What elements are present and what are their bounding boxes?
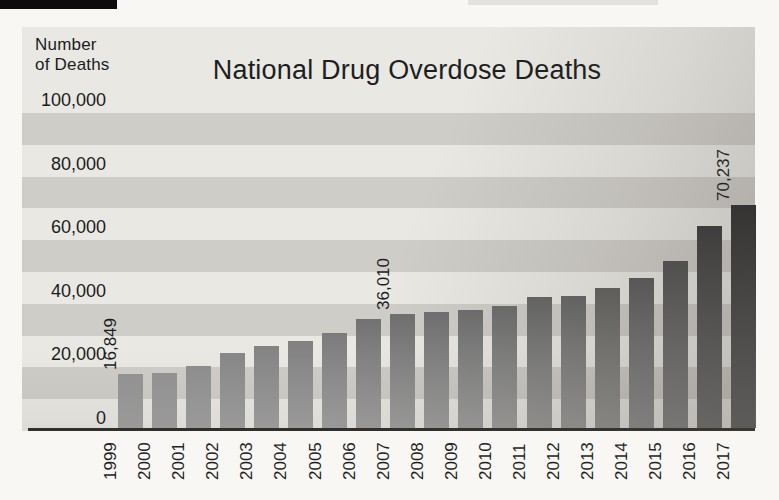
bar-2000	[152, 373, 177, 428]
y-axis-title: Number of Deaths	[35, 35, 110, 75]
bar-2009	[458, 310, 483, 428]
bar-2005	[322, 333, 347, 428]
y-tick-label-100000: 100,000	[26, 89, 106, 111]
bar-1999	[118, 374, 143, 428]
y-tick-label-20000: 20,000	[26, 343, 106, 365]
x-tick-label-2012: 2012	[545, 442, 563, 480]
bar-2012	[561, 296, 586, 428]
x-tick-label-2007: 2007	[375, 442, 393, 480]
bar-value-label-1999: 16,849	[102, 318, 120, 370]
plot-area: Number of Deaths National Drug Overdose …	[22, 27, 755, 431]
bar-2004	[288, 341, 313, 428]
bar-2008	[424, 312, 449, 428]
bar-2011	[527, 297, 552, 429]
y-tick-label-80000: 80,000	[26, 153, 106, 175]
y-axis-title-line1: Number	[35, 35, 110, 55]
x-tick-label-2016: 2016	[681, 442, 699, 480]
bar-2007	[390, 314, 415, 429]
bar-2015	[663, 261, 688, 428]
x-tick-label-2003: 2003	[238, 442, 256, 480]
x-tick-label-2006: 2006	[341, 442, 359, 480]
x-tick-label-2002: 2002	[204, 442, 222, 480]
x-tick-label-2014: 2014	[613, 442, 631, 480]
plot-band	[22, 177, 755, 209]
x-tick-label-2011: 2011	[511, 443, 529, 480]
bar-2016	[697, 226, 722, 428]
bar-2001	[186, 366, 211, 428]
bar-2017	[731, 205, 756, 428]
bar-2006	[356, 319, 381, 429]
bar-2003	[254, 346, 279, 428]
x-tick-label-2004: 2004	[272, 442, 290, 480]
x-axis-line	[28, 428, 755, 431]
plot-band	[22, 208, 755, 240]
bar-2014	[629, 278, 654, 428]
plot-band	[22, 145, 755, 177]
x-tick-label-2009: 2009	[443, 442, 461, 480]
bar-2002	[220, 353, 245, 428]
y-tick-label-60000: 60,000	[26, 216, 106, 238]
x-tick-label-2010: 2010	[477, 442, 495, 480]
x-tick-label-2017: 2017	[715, 442, 733, 480]
x-tick-label-2000: 2000	[136, 442, 154, 480]
bar-2010	[492, 306, 517, 428]
y-axis-title-line2: of Deaths	[35, 55, 110, 75]
chart-page: Number of Deaths National Drug Overdose …	[0, 0, 779, 500]
x-tick-label-2005: 2005	[307, 442, 325, 480]
x-tick-label-2001: 2001	[170, 442, 188, 480]
bar-value-label-2007: 36,010	[375, 258, 393, 310]
scan-artifact-black-bar	[0, 0, 117, 9]
x-tick-label-2008: 2008	[409, 442, 427, 480]
chart-title: National Drug Overdose Deaths	[213, 55, 602, 86]
y-tick-label-0: 0	[26, 407, 106, 429]
bar-value-label-2017: 70,237	[715, 149, 733, 201]
x-tick-label-2015: 2015	[647, 442, 665, 480]
bar-2013	[595, 288, 620, 428]
x-tick-label-2013: 2013	[579, 442, 597, 480]
plot-band	[22, 113, 755, 145]
scan-artifact-smudge	[468, 0, 658, 5]
y-tick-label-40000: 40,000	[26, 280, 106, 302]
x-tick-label-1999: 1999	[102, 442, 120, 480]
